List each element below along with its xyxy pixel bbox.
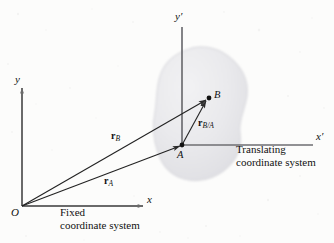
- vector-label-r-b-a: rB/A: [198, 118, 214, 130]
- caption-fixed-line1: Fixed: [60, 206, 85, 219]
- diagram-canvas: [0, 0, 334, 243]
- vector-label-r-a: rA: [104, 176, 113, 188]
- vector-r-a-line: [22, 146, 180, 206]
- vector-label-r-b-a-subscript: B/A: [202, 121, 214, 130]
- vector-label-r-b-subscript: B: [115, 134, 120, 143]
- caption-translating-line1: Translating: [236, 143, 286, 156]
- caption-translating-line2: coordinate system: [236, 156, 316, 169]
- vector-label-r-a-subscript: A: [108, 179, 113, 188]
- figure-container: y x O y′ x′ A B rB rA rB/A Fixed coordin…: [0, 0, 334, 243]
- axis-label-y-prime: y′: [175, 11, 182, 22]
- point-a-dot: [180, 143, 185, 148]
- vector-label-r-b: rB: [111, 131, 120, 143]
- point-b-dot: [207, 96, 212, 101]
- axis-label-y: y: [15, 74, 20, 85]
- axis-label-x: x: [147, 194, 152, 205]
- point-label-b: B: [214, 90, 220, 101]
- origin-label-o: O: [11, 207, 19, 218]
- rigid-body-shape: [153, 47, 247, 181]
- axis-label-x-prime: x′: [316, 131, 323, 142]
- point-label-a: A: [177, 150, 183, 161]
- caption-fixed-line2: coordinate system: [60, 219, 140, 232]
